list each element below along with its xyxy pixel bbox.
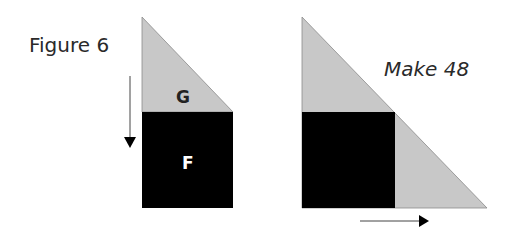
label-g: G xyxy=(176,87,190,107)
right-arrow-icon xyxy=(360,215,429,227)
label-f: F xyxy=(182,153,194,173)
left-figure: G F xyxy=(124,17,233,208)
down-arrow-icon xyxy=(124,76,136,148)
diagram: G F Figure 6 Make 48 xyxy=(0,0,511,238)
right-figure xyxy=(302,17,487,227)
figure-caption: Make 48 xyxy=(384,57,469,81)
figure-title: Figure 6 xyxy=(29,33,109,57)
square-black xyxy=(302,112,395,208)
